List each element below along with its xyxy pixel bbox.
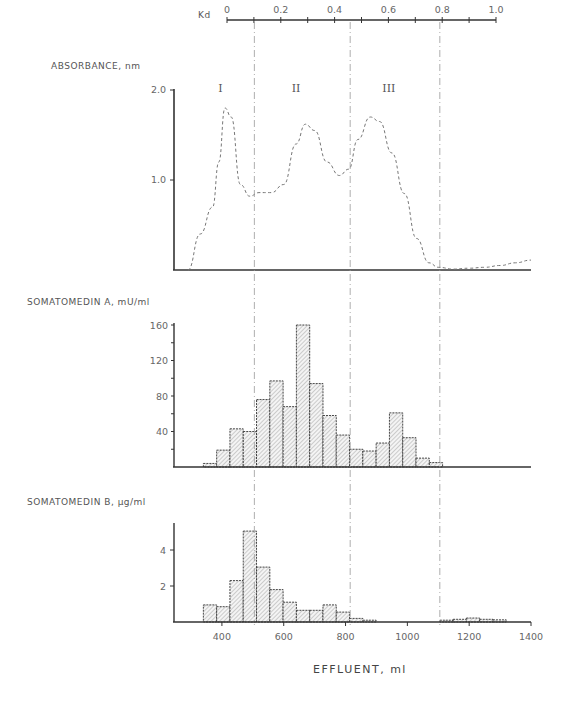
kd-axis: Kd 00.20.40.60.81.0 [198, 4, 504, 23]
histogram-bar [310, 384, 323, 467]
somatomedin-b-y-tick: 4 [160, 545, 166, 556]
histogram-bar [336, 435, 349, 467]
histogram-bar [363, 451, 376, 467]
region-label: I [218, 82, 222, 95]
somatomedin-b-y-tick: 2 [160, 581, 166, 592]
x-tick-label: 400 [213, 631, 231, 642]
histogram-bar [376, 443, 389, 467]
histogram-bar [217, 450, 230, 467]
histogram-bar [257, 400, 270, 467]
absorbance-title: ABSORBANCE, nm [51, 61, 140, 71]
somatomedin-a-y-tick: 40 [156, 426, 168, 437]
histogram-bar [350, 449, 363, 467]
histogram-bar [270, 590, 283, 622]
x-tick-label: 600 [275, 631, 293, 642]
histogram-bar [283, 407, 296, 467]
somatomedin-a-title: SOMATOMEDIN A, mU/ml [27, 297, 150, 307]
kd-tick-label: 0.6 [381, 4, 396, 15]
somatomedin-a-y-tick: 160 [150, 320, 168, 331]
somatomedin-a-y-tick: 80 [156, 391, 168, 402]
somatomedin-b-title: SOMATOMEDIN B, µg/ml [27, 497, 146, 507]
somatomedin-a-y-tick: 120 [150, 355, 168, 366]
region-label: II [292, 82, 301, 95]
histogram-bar [270, 381, 283, 467]
absorbance-panel: ABSORBANCE, nm 1.02.0 IIIIII [51, 61, 531, 270]
x-tick-label: 1400 [519, 631, 543, 642]
kd-tick-label: 0.2 [273, 4, 288, 15]
histogram-bar [296, 610, 309, 622]
absorbance-curve [188, 108, 531, 270]
histogram-bar [310, 610, 323, 622]
histogram-bar [403, 438, 416, 467]
chromatography-figure: Kd 00.20.40.60.81.0 ABSORBANCE, nm 1.02.… [0, 0, 573, 705]
histogram-bar [230, 581, 243, 622]
histogram-bar [203, 605, 216, 622]
histogram-bar [283, 602, 296, 622]
histogram-bar [230, 429, 243, 467]
histogram-bar [217, 607, 230, 622]
histogram-bar [389, 413, 402, 467]
x-axis-title: EFFLUENT, ml [313, 663, 407, 676]
kd-tick-label: 0.8 [435, 4, 450, 15]
somatomedin-b-panel: SOMATOMEDIN B, µg/ml 24 4006008001000120… [27, 497, 543, 676]
x-tick-label: 800 [336, 631, 354, 642]
absorbance-y-tick: 1.0 [151, 174, 166, 185]
kd-tick-label: 0.4 [327, 4, 342, 15]
somatomedin-a-panel: SOMATOMEDIN A, mU/ml 4080120160 [27, 297, 531, 467]
kd-axis-label: Kd [198, 10, 211, 20]
kd-tick-label: 0 [224, 4, 230, 15]
histogram-bar [323, 416, 336, 467]
histogram-bar [296, 325, 309, 467]
histogram-bar [416, 458, 429, 467]
region-label: III [382, 82, 395, 95]
absorbance-y-tick: 2.0 [151, 84, 166, 95]
histogram-bar [336, 612, 349, 622]
x-tick-label: 1000 [395, 631, 419, 642]
histogram-bar [323, 605, 336, 622]
fraction-dividers [254, 22, 439, 625]
kd-tick-label: 1.0 [488, 4, 503, 15]
x-tick-label: 1200 [457, 631, 481, 642]
histogram-bar [257, 567, 270, 622]
